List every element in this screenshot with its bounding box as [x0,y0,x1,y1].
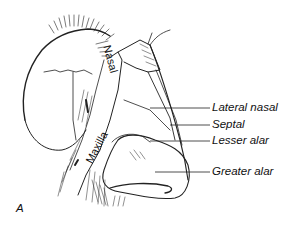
callout-lateral-nasal: Lateral nasal [212,102,278,114]
greater-alar-cartilage [103,135,189,198]
orbit-lower-edge [25,120,86,150]
callout-greater-alar: Greater alar [212,166,273,178]
hair-strand [148,33,152,44]
panel-label: A [16,203,24,215]
nasal-anatomy-illustration [0,0,300,230]
hair-strand [150,30,170,45]
callout-septal: Septal [212,119,245,131]
callout-lesser-alar: Lesser alar [212,135,269,147]
shadow-mark [75,160,78,165]
orbit-outline [23,29,110,120]
lacrimal-line [73,72,76,140]
shadow-mark [86,100,88,112]
nasal-dorsum [150,45,188,180]
frontal-suture [44,70,92,74]
